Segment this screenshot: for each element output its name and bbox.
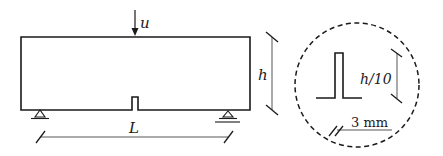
- height-dimension: [266, 32, 278, 115]
- diagram-canvas: u L h: [0, 0, 443, 156]
- beam-outline: [21, 37, 250, 110]
- notch-profile: [316, 53, 362, 98]
- span-label: L: [128, 119, 139, 137]
- right-support-icon: [215, 111, 240, 122]
- notch-depth-text: h/10: [360, 71, 392, 87]
- load-label: u: [140, 14, 150, 32]
- beam: [21, 37, 250, 110]
- notch-width-label: 3 mm: [351, 115, 388, 130]
- load-arrow-icon: [132, 10, 139, 36]
- left-support-icon: [31, 110, 49, 119]
- notch-depth-label: h/10: [360, 71, 392, 87]
- height-label: h: [258, 66, 268, 84]
